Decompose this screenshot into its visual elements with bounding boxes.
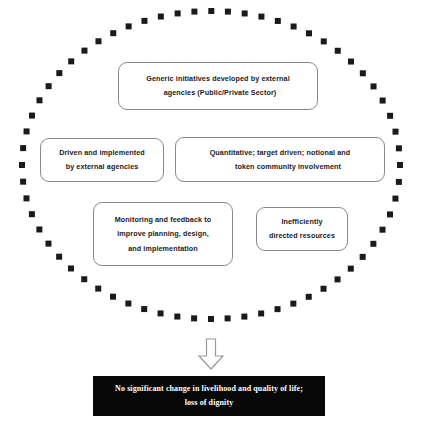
- box-quantitative-target: Quantitative; target driven; notional an…: [175, 137, 385, 182]
- box-monitoring-feedback: Monitoring and feedback to improve plann…: [93, 202, 233, 266]
- outcome-banner: No significant change in livelihood and …: [93, 376, 325, 416]
- box-monitoring-feedback-line3: and implementation: [100, 241, 226, 255]
- box-quantitative-target-line2: token community involvement: [182, 160, 378, 174]
- box-inefficiently-directed-line1: Inefficiently: [263, 215, 341, 229]
- box-monitoring-feedback-line2: improve planning, design,: [100, 227, 226, 241]
- box-generic-initiatives: Generic initiatives developed by externa…: [118, 62, 318, 110]
- box-inefficiently-directed-line2: directed resources: [263, 229, 341, 243]
- outcome-banner-line1: No significant change in livelihood and …: [93, 382, 325, 396]
- box-driven-implemented-line1: Driven and implemented: [47, 146, 157, 160]
- outcome-banner-line2: loss of dignity: [93, 396, 325, 410]
- box-inefficiently-directed: Inefficiently directed resources: [256, 207, 348, 251]
- arrow-down-icon: [196, 338, 226, 370]
- box-generic-initiatives-line1: Generic initiatives developed by externa…: [125, 72, 311, 86]
- box-driven-implemented: Driven and implemented by external agenc…: [40, 138, 164, 182]
- box-generic-initiatives-line2: agencies (Public/Private Sector): [125, 86, 311, 100]
- box-monitoring-feedback-line1: Monitoring and feedback to: [100, 212, 226, 226]
- diagram-canvas: Generic initiatives developed by externa…: [0, 0, 424, 432]
- box-driven-implemented-line2: by external agencies: [47, 160, 157, 174]
- box-quantitative-target-line1: Quantitative; target driven; notional an…: [182, 145, 378, 159]
